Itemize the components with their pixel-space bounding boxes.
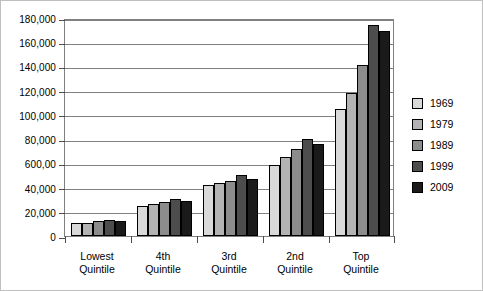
bar-1989-0 <box>93 221 104 236</box>
bar-1979-2 <box>214 183 225 236</box>
y-axis-label: 20,000 <box>25 209 56 219</box>
y-axis-label: 120,000 <box>19 88 56 98</box>
x-axis-tick <box>131 236 132 243</box>
category-label-line: 2nd <box>277 250 313 263</box>
bar-1979-0 <box>82 223 93 236</box>
chart-legend: 19691979198919992009 <box>412 93 453 198</box>
y-axis-label: 80,000 <box>25 136 56 146</box>
category-label-line: Quintile <box>79 263 115 276</box>
y-axis-label: 100,000 <box>19 112 56 122</box>
bar-1969-0 <box>71 223 82 236</box>
bar-group <box>329 20 395 236</box>
bar-1969-2 <box>203 185 214 236</box>
bar-1999-4 <box>368 25 379 236</box>
legend-item-1999: 1999 <box>412 156 453 177</box>
bar-1989-2 <box>225 181 236 236</box>
x-axis-tick <box>65 236 66 243</box>
chart-figure: 020,00040,000600,0080,000100,000120,0001… <box>0 0 483 291</box>
bar-2009-1 <box>181 201 192 236</box>
bar-2009-2 <box>247 179 258 236</box>
legend-item-1969: 1969 <box>412 93 453 114</box>
bar-group <box>197 20 263 236</box>
legend-label: 1979 <box>430 119 453 130</box>
y-axis-label: 140,000 <box>19 63 56 73</box>
legend-label: 1989 <box>430 140 453 151</box>
bar-2009-3 <box>313 144 324 236</box>
bar-1989-1 <box>159 202 170 236</box>
bar-group <box>263 20 329 236</box>
category-label-line: Lowest <box>79 250 115 263</box>
legend-item-1989: 1989 <box>412 135 453 156</box>
bar-1999-0 <box>104 220 115 236</box>
bar-1999-3 <box>302 139 313 236</box>
category-label-line: 3rd <box>211 250 247 263</box>
bar-group <box>65 20 131 236</box>
x-axis-tick <box>329 236 330 243</box>
category-label-line: Quintile <box>211 263 247 276</box>
bar-1989-3 <box>291 149 302 236</box>
bar-1979-4 <box>346 93 357 236</box>
x-axis-tick <box>263 236 264 243</box>
category-label-2: 3rdQuintile <box>211 250 247 275</box>
y-axis-label: 180,000 <box>19 15 56 25</box>
legend-label: 1969 <box>430 98 453 109</box>
bar-2009-4 <box>379 31 390 236</box>
bar-1969-4 <box>335 109 346 236</box>
category-label-line: Quintile <box>343 263 379 276</box>
bar-1969-1 <box>137 206 148 236</box>
legend-item-2009: 2009 <box>412 177 453 198</box>
category-label-1: 4thQuintile <box>145 250 181 275</box>
legend-swatch-2009 <box>412 182 423 193</box>
bar-1979-1 <box>148 204 159 236</box>
bar-1989-4 <box>357 65 368 236</box>
x-axis-tick <box>394 236 395 243</box>
legend-label: 2009 <box>430 182 453 193</box>
y-axis-label: 600,00 <box>25 160 56 170</box>
y-axis-label: 160,000 <box>19 39 56 49</box>
y-axis-label: 40,000 <box>25 185 56 195</box>
plot-area: 020,00040,000600,0080,000100,000120,0001… <box>64 19 394 237</box>
category-label-line: Top <box>343 250 379 263</box>
bar-1969-3 <box>269 165 280 236</box>
bar-1999-2 <box>236 175 247 236</box>
category-label-line: Quintile <box>277 263 313 276</box>
bar-group <box>131 20 197 236</box>
y-axis-label: 0 <box>50 233 56 243</box>
bar-1999-1 <box>170 199 181 236</box>
legend-swatch-1989 <box>412 140 423 151</box>
category-label-0: LowestQuintile <box>79 250 115 275</box>
category-label-line: 4th <box>145 250 181 263</box>
legend-swatch-1969 <box>412 98 423 109</box>
bar-1979-3 <box>280 157 291 236</box>
x-axis-tick <box>197 236 198 243</box>
category-label-4: TopQuintile <box>343 250 379 275</box>
category-label-line: Quintile <box>145 263 181 276</box>
legend-label: 1999 <box>430 161 453 172</box>
category-label-3: 2ndQuintile <box>277 250 313 275</box>
bar-2009-0 <box>115 221 126 236</box>
legend-item-1979: 1979 <box>412 114 453 135</box>
legend-swatch-1979 <box>412 119 423 130</box>
legend-swatch-1999 <box>412 161 423 172</box>
